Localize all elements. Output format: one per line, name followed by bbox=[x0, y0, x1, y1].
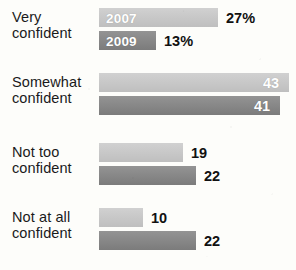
category-label-line1: Not too bbox=[12, 144, 59, 160]
category-label-line2: confident bbox=[12, 90, 81, 106]
category-label: Not tooconfident bbox=[12, 144, 72, 176]
category-label-line2: confident bbox=[12, 25, 72, 41]
bar-row: 22 bbox=[99, 166, 296, 185]
bar-value-label: 10 bbox=[151, 210, 167, 226]
category-label-line2: confident bbox=[12, 225, 72, 241]
bar-value-label: 19 bbox=[191, 145, 207, 161]
bar-value-label: 22 bbox=[204, 168, 220, 184]
series-tag-2007: 2007 bbox=[106, 10, 137, 25]
bar-value-label: 22 bbox=[204, 233, 220, 249]
category-label: Veryconfident bbox=[12, 9, 72, 41]
bar-series-2009[interactable] bbox=[99, 96, 280, 115]
category-label-line2: confident bbox=[12, 160, 72, 176]
bar-series-2009[interactable] bbox=[99, 166, 196, 185]
bar-value-label: 27% bbox=[226, 10, 255, 26]
bar-value-label: 13% bbox=[164, 33, 193, 49]
category-label-line1: Very bbox=[12, 9, 41, 25]
bar-series-2009[interactable] bbox=[99, 231, 196, 250]
bar-row: 10 bbox=[99, 208, 296, 227]
bar-row: 19 bbox=[99, 143, 296, 162]
bar-row: 43 bbox=[99, 73, 296, 92]
bar-series-2007[interactable] bbox=[99, 208, 143, 227]
bar-row: 200913% bbox=[99, 31, 296, 50]
category-label: Somewhatconfident bbox=[12, 74, 81, 106]
bar-series-2007[interactable] bbox=[99, 143, 183, 162]
series-tag-2009: 2009 bbox=[106, 33, 137, 48]
bar-row: 41 bbox=[99, 96, 296, 115]
bar-row: 200727% bbox=[99, 8, 296, 27]
bar-value-label: 41 bbox=[254, 98, 270, 114]
bar-row: 22 bbox=[99, 231, 296, 250]
bar-series-2007[interactable] bbox=[99, 73, 289, 92]
bar-value-label: 43 bbox=[263, 75, 279, 91]
category-label: Not at allconfident bbox=[12, 209, 72, 241]
category-label-line1: Not at all bbox=[12, 209, 70, 225]
bar-chart: Veryconfident200727%200913%Somewhatconfi… bbox=[0, 0, 296, 270]
category-label-line1: Somewhat bbox=[12, 74, 81, 90]
